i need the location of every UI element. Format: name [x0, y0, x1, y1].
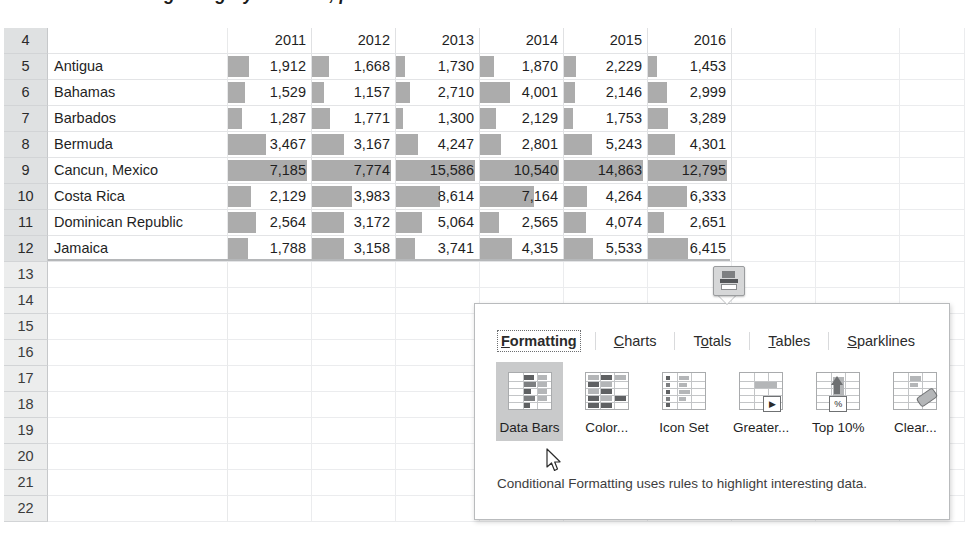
row-label-cell[interactable]: Cancun, Mexico	[48, 158, 228, 184]
empty-cell[interactable]	[48, 262, 228, 288]
tab-charts[interactable]: Charts	[610, 330, 661, 352]
empty-cell[interactable]	[228, 444, 312, 470]
data-cell[interactable]: 15,586	[396, 158, 480, 184]
data-cell[interactable]: 5,064	[396, 210, 480, 236]
empty-cell[interactable]	[816, 28, 900, 54]
empty-cell[interactable]	[48, 496, 228, 522]
empty-cell[interactable]	[312, 288, 396, 314]
empty-cell[interactable]	[228, 262, 312, 288]
empty-cell[interactable]	[396, 366, 480, 392]
row-header[interactable]: 10	[4, 184, 48, 210]
data-cell[interactable]: 2,801	[480, 132, 564, 158]
empty-cell[interactable]	[228, 392, 312, 418]
empty-cell[interactable]	[732, 80, 816, 106]
empty-cell[interactable]	[396, 288, 480, 314]
row-label-cell[interactable]: Bahamas	[48, 80, 228, 106]
data-cell[interactable]: 2,710	[396, 80, 480, 106]
row-header[interactable]: 6	[4, 80, 48, 106]
sheet-row[interactable]: 7Barbados1,2871,7711,3002,1291,7533,289	[0, 106, 965, 132]
data-cell[interactable]: 2,564	[228, 210, 312, 236]
tab-totals[interactable]: Totals	[689, 330, 735, 352]
empty-cell[interactable]	[396, 392, 480, 418]
empty-cell[interactable]	[228, 418, 312, 444]
data-cell[interactable]: 4,001	[480, 80, 564, 106]
column-header-cell[interactable]: 2014	[480, 28, 564, 54]
data-cell[interactable]: 1,753	[564, 106, 648, 132]
data-cell[interactable]: 2,229	[564, 54, 648, 80]
gallery-item-data-bars[interactable]: Data Bars	[496, 362, 563, 441]
column-header-cell[interactable]: 2016	[648, 28, 732, 54]
empty-cell[interactable]	[48, 418, 228, 444]
empty-cell[interactable]	[312, 262, 396, 288]
empty-cell[interactable]	[816, 236, 900, 262]
empty-cell[interactable]	[816, 210, 900, 236]
sheet-row[interactable]: 8Bermuda3,4673,1674,2472,8015,2434,301	[0, 132, 965, 158]
column-header-cell[interactable]: 2011	[228, 28, 312, 54]
data-cell[interactable]: 3,467	[228, 132, 312, 158]
data-cell[interactable]: 7,185	[228, 158, 312, 184]
empty-cell[interactable]	[228, 288, 312, 314]
empty-cell[interactable]	[900, 132, 965, 158]
empty-cell[interactable]	[48, 314, 228, 340]
data-cell[interactable]: 5,243	[564, 132, 648, 158]
data-cell[interactable]: 1,529	[228, 80, 312, 106]
sheet-row[interactable]: 5Antigua1,9121,6681,7301,8702,2291,453	[0, 54, 965, 80]
empty-cell[interactable]	[312, 392, 396, 418]
data-cell[interactable]: 1,668	[312, 54, 396, 80]
row-label-cell[interactable]: Dominican Republic	[48, 210, 228, 236]
empty-cell[interactable]	[816, 158, 900, 184]
empty-cell[interactable]	[312, 366, 396, 392]
row-header[interactable]: 15	[4, 314, 48, 340]
empty-cell[interactable]	[228, 314, 312, 340]
data-cell[interactable]: 2,651	[648, 210, 732, 236]
row-label-cell[interactable]: Costa Rica	[48, 184, 228, 210]
column-header-cell[interactable]: 2012	[312, 28, 396, 54]
column-header-cell[interactable]: 2015	[564, 28, 648, 54]
data-cell[interactable]: 8,614	[396, 184, 480, 210]
empty-cell[interactable]	[48, 340, 228, 366]
empty-cell[interactable]	[816, 262, 900, 288]
empty-cell[interactable]	[48, 392, 228, 418]
data-cell[interactable]: 2,565	[480, 210, 564, 236]
row-label-cell[interactable]: Barbados	[48, 106, 228, 132]
gallery-item-greater[interactable]: ▶Greater...	[728, 362, 795, 441]
data-cell[interactable]: 7,774	[312, 158, 396, 184]
row-label-cell[interactable]: Bermuda	[48, 132, 228, 158]
empty-cell[interactable]	[732, 132, 816, 158]
empty-cell[interactable]	[312, 496, 396, 522]
empty-cell[interactable]	[732, 54, 816, 80]
tab-sparklines[interactable]: Sparklines	[843, 330, 919, 352]
row-header[interactable]: 17	[4, 366, 48, 392]
empty-cell[interactable]	[732, 184, 816, 210]
data-cell[interactable]: 4,264	[564, 184, 648, 210]
empty-cell[interactable]	[900, 28, 965, 54]
row-header[interactable]: 13	[4, 262, 48, 288]
sheet-row[interactable]: 6Bahamas1,5291,1572,7104,0012,1462,999	[0, 80, 965, 106]
sheet-row[interactable]: 10Costa Rica2,1293,9838,6147,1644,2646,3…	[0, 184, 965, 210]
empty-cell[interactable]	[732, 236, 816, 262]
data-cell[interactable]: 4,247	[396, 132, 480, 158]
column-header-cell[interactable]: 2013	[396, 28, 480, 54]
empty-cell[interactable]	[312, 340, 396, 366]
empty-cell[interactable]	[48, 470, 228, 496]
empty-cell[interactable]	[900, 236, 965, 262]
data-cell[interactable]: 3,172	[312, 210, 396, 236]
empty-cell[interactable]	[816, 132, 900, 158]
empty-cell[interactable]	[48, 366, 228, 392]
row-header[interactable]: 4	[4, 28, 48, 54]
gallery-item-color[interactable]: Color...	[573, 362, 640, 441]
quick-analysis-button[interactable]	[713, 266, 745, 296]
empty-cell[interactable]	[228, 366, 312, 392]
quick-analysis-popup[interactable]: FormattingChartsTotalsTablesSparklines D…	[474, 303, 950, 520]
empty-cell[interactable]	[312, 418, 396, 444]
data-cell[interactable]: 1,870	[480, 54, 564, 80]
formatting-gallery[interactable]: Data BarsColor...Icon Set▶Greater...%Top…	[475, 362, 949, 462]
data-cell[interactable]: 4,301	[648, 132, 732, 158]
data-cell[interactable]: 3,983	[312, 184, 396, 210]
data-cell[interactable]: 3,167	[312, 132, 396, 158]
empty-cell[interactable]	[48, 288, 228, 314]
empty-cell[interactable]	[900, 262, 965, 288]
empty-cell[interactable]	[396, 418, 480, 444]
empty-cell[interactable]	[900, 210, 965, 236]
empty-cell[interactable]	[816, 106, 900, 132]
